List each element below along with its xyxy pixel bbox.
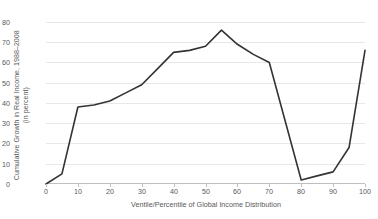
x-axis-title: Ventile/Percentile of Global Income Dist… [46,200,366,209]
x-tick-label-20: 20 [97,188,123,195]
y-axis-title-line2: (in percent) [22,15,31,195]
y-axis-title-line1: Cumulative Growth in Real Income, 1988–2… [13,15,22,195]
x-tick-label-0: 0 [33,188,59,195]
y-tick-label-30: 30 [0,120,10,127]
x-tick-label-50: 50 [193,188,219,195]
y-tick-label-70: 70 [0,39,10,46]
y-tick-label-80: 80 [0,19,10,26]
y-tick-label-50: 50 [0,80,10,87]
x-tick-label-70: 70 [256,188,282,195]
y-tick-label-0: 0 [0,181,10,188]
x-tick-label-90: 90 [320,188,346,195]
x-tick-label-10: 10 [65,188,91,195]
x-tick-label-30: 30 [129,188,155,195]
y-tick-label-20: 20 [0,140,10,147]
data-polyline [46,30,365,184]
y-axis-title: Cumulative Growth in Real Income, 1988–2… [13,15,31,195]
x-tick-label-60: 60 [224,188,250,195]
y-tick-label-40: 40 [0,100,10,107]
y-tick-label-60: 60 [0,59,10,66]
y-tick-label-10: 10 [0,161,10,168]
x-tick-label-40: 40 [161,188,187,195]
x-tick-label-80: 80 [288,188,314,195]
elephant-curve-chart: Cumulative Growth in Real Income, 1988–2… [0,0,378,219]
x-tick-label-100: 100 [352,188,378,195]
income-growth-line [46,22,365,184]
